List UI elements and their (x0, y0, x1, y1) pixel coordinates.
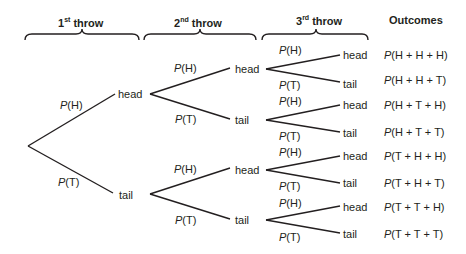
prob-label: P(T) (279, 130, 300, 142)
brace-throw2 (144, 29, 256, 40)
header-throw2: 2nd throw (174, 16, 222, 29)
outcome: P(T + H + H) (384, 150, 446, 162)
leaf-head: head (343, 150, 367, 162)
outcome: P(H + H + H) (384, 49, 448, 61)
prob-label: P(H) (60, 99, 83, 111)
leaf-head: head (343, 201, 367, 213)
node-head: head (235, 63, 259, 75)
prob-label: P(T) (279, 79, 300, 91)
outcome: P(T + T + T) (384, 228, 443, 240)
outcome: P(H + T + H) (384, 99, 446, 111)
prob-label: P(H) (279, 95, 302, 107)
prob-label: P(H) (174, 62, 197, 74)
prob-label: P(T) (58, 176, 79, 188)
outcome: P(T + T + H) (384, 201, 445, 213)
header-outcomes: Outcomes (389, 14, 443, 26)
header-throw1: 1st throw (58, 16, 103, 29)
leaf-head: head (343, 49, 367, 61)
prob-label: P(T) (175, 113, 196, 125)
leaf-tail: tail (343, 228, 357, 240)
outcome: P(H + H + T) (384, 74, 446, 86)
prob-label: P(T) (279, 231, 300, 243)
leaf-tail: tail (343, 177, 357, 189)
leaf-tail: tail (343, 78, 357, 90)
brace-throw1 (25, 29, 139, 40)
prob-label: P(H) (279, 44, 302, 56)
leaf-head: head (343, 99, 367, 111)
prob-label: P(T) (279, 180, 300, 192)
node-tail: tail (119, 189, 133, 201)
prob-label: P(H) (279, 197, 302, 209)
brace-throw3 (262, 29, 368, 40)
outcome: P(H + T + T) (384, 126, 445, 138)
node-tail: tail (235, 114, 249, 126)
prob-label: P(H) (174, 163, 197, 175)
prob-label: P(H) (279, 146, 302, 158)
node-tail: tail (235, 214, 249, 226)
prob-label: P(T) (175, 214, 196, 226)
header-throw3: 3rd throw (296, 14, 342, 27)
node-head: head (235, 164, 259, 176)
node-head: head (118, 88, 142, 100)
outcome: P(T + H + T) (384, 177, 445, 189)
leaf-tail: tail (343, 127, 357, 139)
